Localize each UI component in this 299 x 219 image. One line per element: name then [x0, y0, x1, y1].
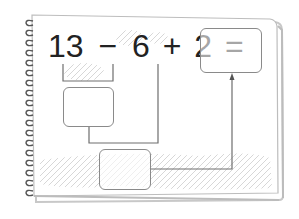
minus-sign: − — [98, 30, 117, 62]
plus-sign: + — [163, 30, 182, 62]
term-13: 13 — [48, 30, 84, 62]
intermediate-box-1[interactable] — [63, 87, 114, 127]
answer-box[interactable] — [200, 28, 262, 73]
intermediate-box-2[interactable] — [99, 149, 151, 190]
term-6: 6 — [132, 30, 150, 62]
notebook-worksheet: 13 − 6 + 2 = — [0, 0, 299, 219]
